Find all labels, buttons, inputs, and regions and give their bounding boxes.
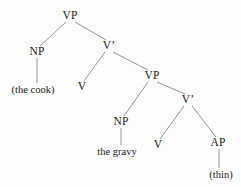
tree-edge-vp2-vbar2: [157, 82, 185, 94]
tree-node-thegravy: the gravy: [97, 147, 136, 158]
tree-edge-vp2-np2: [124, 82, 148, 116]
tree-node-vp1: VP: [62, 10, 77, 22]
tree-node-ap: AP: [210, 137, 225, 149]
tree-node-vbar1: V’: [103, 40, 116, 52]
tree-node-np2: NP: [113, 116, 128, 128]
tree-node-thecook: (the cook): [12, 85, 55, 96]
tree-node-v1: V: [78, 81, 87, 93]
tree-edge-vp1-np1: [40, 22, 66, 46]
tree-node-v2: V: [154, 139, 163, 151]
tree-node-np1: NP: [29, 46, 44, 58]
tree-edge-vbar2-ap: [192, 106, 216, 137]
tree-node-vp2: VP: [144, 70, 159, 82]
tree-edge-vbar1-v1: [84, 52, 105, 81]
tree-node-thin: (thin): [209, 170, 232, 181]
tree-edge-vp1-vbar1: [75, 22, 106, 40]
tree-node-vbar2: V’: [182, 94, 195, 106]
tree-edge-vbar2-v2: [160, 106, 184, 139]
tree-edge-vbar1-vp2: [113, 52, 148, 70]
syntax-tree-figure: VPNP(the cook)V’VVPNPthe gravyV’VAP(thin…: [0, 0, 241, 187]
